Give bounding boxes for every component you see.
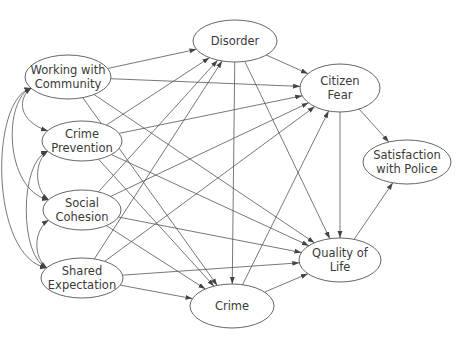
edge-crime-prevention-to-quality-of-life bbox=[111, 155, 309, 246]
node-label: Expectation bbox=[48, 278, 116, 292]
node-label: Satisfaction bbox=[373, 148, 441, 162]
node-quality-of-life: Quality ofLife bbox=[299, 238, 381, 282]
node-disorder: Disorder bbox=[193, 20, 277, 62]
edge-shared-expectation-to-disorder bbox=[94, 61, 222, 259]
correlation-crime-prevention-social-cohesion bbox=[38, 151, 49, 200]
node-label: Crime bbox=[65, 127, 99, 141]
correlation-working-with-community-shared-expectation bbox=[2, 88, 47, 268]
edge-crime-prevention-to-citizen-fear bbox=[119, 96, 302, 134]
node-label: Quality of bbox=[312, 246, 369, 260]
edge-shared-expectation-to-crime bbox=[120, 285, 192, 298]
node-shared-expectation: SharedExpectation bbox=[41, 258, 123, 298]
edge-social-cohesion-to-disorder bbox=[98, 60, 217, 192]
node-citizen-fear: CitizenFear bbox=[300, 64, 380, 112]
edge-social-cohesion-to-quality-of-life bbox=[118, 217, 301, 252]
path-diagram: Working withCommunityCrimePreventionSoci… bbox=[0, 0, 462, 342]
edge-shared-expectation-to-quality-of-life bbox=[123, 263, 300, 275]
node-working-with-community: Working withCommunity bbox=[25, 55, 111, 99]
node-label: with Police bbox=[376, 162, 437, 176]
edge-working-with-community-to-quality-of-life bbox=[94, 95, 314, 243]
node-social-cohesion: SocialCohesion bbox=[43, 190, 121, 230]
node-label: Shared bbox=[62, 264, 103, 278]
node-label: Fear bbox=[328, 88, 353, 102]
correlation-social-cohesion-shared-expectation bbox=[37, 220, 49, 268]
node-label: Citizen bbox=[320, 74, 359, 88]
node-label: Social bbox=[65, 196, 99, 210]
edge-quality-of-life-to-satisfaction-with-police bbox=[354, 183, 393, 240]
edge-disorder-to-crime bbox=[232, 62, 235, 284]
node-crime-prevention: CrimePrevention bbox=[42, 121, 122, 161]
node-satisfaction-with-police: Satisfactionwith Police bbox=[363, 140, 451, 184]
edge-disorder-to-citizen-fear bbox=[266, 55, 308, 74]
node-label: Community bbox=[35, 77, 102, 91]
edge-crime-prevention-to-disorder bbox=[106, 58, 209, 125]
node-crime: Crime bbox=[190, 284, 274, 328]
node-label: Cohesion bbox=[56, 210, 109, 224]
edge-working-with-community-to-citizen-fear bbox=[111, 79, 300, 87]
node-label: Prevention bbox=[51, 141, 112, 155]
edge-crime-to-quality-of-life bbox=[265, 274, 308, 292]
node-label: Crime bbox=[215, 299, 249, 313]
edge-working-with-community-to-disorder bbox=[108, 49, 197, 68]
edge-citizen-fear-to-satisfaction-with-police bbox=[359, 109, 389, 142]
edge-social-cohesion-to-citizen-fear bbox=[111, 103, 309, 197]
nodes-layer: Working withCommunityCrimePreventionSoci… bbox=[25, 20, 451, 328]
node-label: Life bbox=[330, 260, 351, 274]
node-label: Working with bbox=[31, 63, 106, 77]
node-label: Disorder bbox=[211, 34, 260, 48]
correlations-layer bbox=[2, 88, 49, 268]
